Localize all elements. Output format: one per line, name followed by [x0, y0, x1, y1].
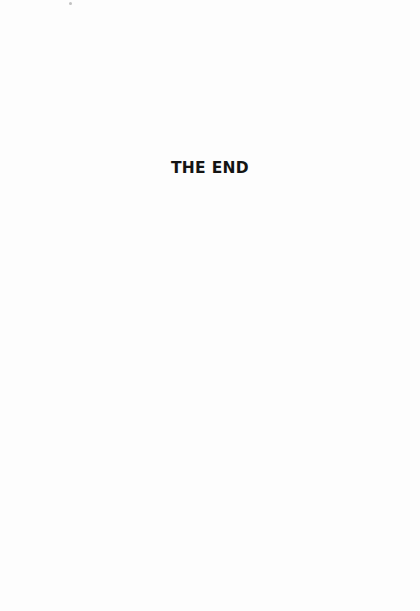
scan-speck — [69, 2, 72, 5]
page-title: THE END — [0, 159, 420, 177]
document-page: THE END — [0, 0, 420, 611]
